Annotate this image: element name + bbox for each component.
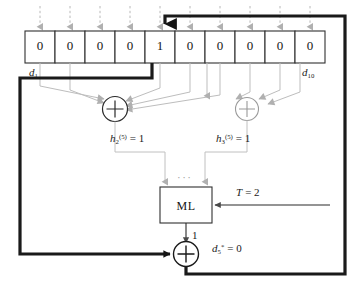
- register-cell-1[interactable]: 0: [25, 38, 55, 54]
- output-sup: *: [221, 243, 224, 250]
- syndrome-label-h3: h3(5)= 1: [216, 133, 250, 146]
- threshold-label: T= 2: [236, 187, 260, 198]
- register-left-label: d1: [29, 67, 38, 80]
- register-cell-10[interactable]: 0: [295, 38, 325, 54]
- register-cell-5[interactable]: 1: [145, 38, 175, 54]
- cell-tap-lines: [40, 63, 300, 110]
- register-cell-6[interactable]: 0: [175, 38, 205, 54]
- ml-output-value: 1: [192, 230, 198, 241]
- register-cell-2[interactable]: 0: [55, 38, 85, 54]
- register-cell-7[interactable]: 0: [205, 38, 235, 54]
- diagram-canvas: 0 0 0 0 1 0 0 0 0 0 d1 d10 h2(5)= 1 h3(5…: [0, 0, 362, 287]
- threshold-eq: = 2: [245, 186, 259, 198]
- majority-logic-label: ML: [160, 199, 212, 214]
- output-eq: = 0: [227, 242, 241, 254]
- decoded-output-label: d5*= 0: [212, 243, 242, 256]
- ml-inputs-ellipsis: ···: [177, 171, 193, 183]
- received-bit-path: [20, 63, 170, 254]
- threshold-base: T: [236, 186, 242, 198]
- d10-sub: 10: [308, 72, 315, 79]
- h2-sup: (5): [119, 133, 127, 140]
- d1-sub: 1: [35, 72, 38, 79]
- h2-eq: = 1: [130, 132, 144, 144]
- syndrome-label-h2: h2(5)= 1: [110, 133, 144, 146]
- register-cell-8[interactable]: 0: [235, 38, 265, 54]
- register-cell-4[interactable]: 0: [115, 38, 145, 54]
- h3-eq: = 1: [236, 132, 250, 144]
- register-cell-9[interactable]: 0: [265, 38, 295, 54]
- register-right-label: d10: [302, 67, 314, 80]
- h3-sup: (5): [225, 133, 233, 140]
- register-cell-3[interactable]: 0: [85, 38, 115, 54]
